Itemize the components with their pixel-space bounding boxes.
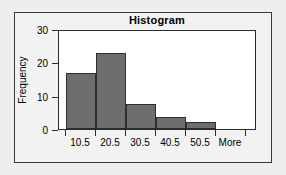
x-tick-label-40-5: 40.5	[160, 137, 179, 148]
bar-10-5	[66, 73, 96, 129]
bar-40-5	[156, 117, 186, 129]
x-tick-label-more: More	[219, 137, 242, 148]
histogram-figure: Histogram 30 20 10 0 Frequency 10.5 20.5…	[0, 0, 286, 175]
bar-50-5	[186, 122, 216, 129]
y-tick-label-30: 30	[24, 25, 48, 36]
x-tick-boundary-4	[155, 130, 156, 136]
x-tick-label-30-5: 30.5	[130, 137, 149, 148]
x-tick-boundary-1	[65, 130, 66, 136]
y-tick-label-20: 20	[24, 58, 48, 69]
y-tick-0	[52, 130, 58, 131]
plot-area	[58, 30, 256, 130]
chart-title: Histogram	[58, 14, 256, 26]
x-tick-label-20-5: 20.5	[100, 137, 119, 148]
bar-20-5	[96, 53, 126, 129]
y-axis-title: Frequency	[17, 56, 28, 103]
x-tick-boundary-3	[125, 130, 126, 136]
x-tick-boundary-6	[215, 130, 216, 136]
x-tick-boundary-5	[185, 130, 186, 136]
x-tick-label-50-5: 50.5	[190, 137, 209, 148]
y-tick-label-0: 0	[24, 125, 48, 136]
bars-container	[59, 31, 255, 129]
x-tick-boundary-2	[95, 130, 96, 136]
y-tick-label-10: 10	[24, 92, 48, 103]
x-tick-boundary-7	[245, 130, 246, 136]
x-tick-label-10-5: 10.5	[70, 137, 89, 148]
bar-30-5	[126, 104, 156, 129]
